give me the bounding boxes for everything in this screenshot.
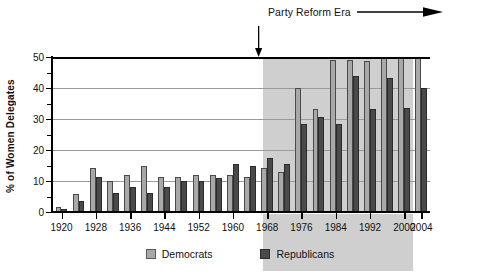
- republicans-bar-1940: [147, 193, 153, 212]
- x-axis-tick: [130, 213, 131, 219]
- x-axis-tick: [404, 213, 405, 219]
- y-tick-label: 10: [20, 176, 44, 187]
- x-axis-tick: [267, 213, 268, 219]
- republicans-bar-1944: [164, 187, 170, 212]
- republicans-bar-1960: [233, 164, 239, 212]
- y-tick-label: 20: [20, 145, 44, 156]
- y-axis-title: % of Women Delegates: [2, 56, 18, 216]
- plot-area: [53, 57, 430, 212]
- y-minor-tick: [47, 197, 51, 198]
- legend-item-republicans: Republicans: [260, 248, 334, 260]
- party-reform-era-annotation: Party Reform Era: [268, 6, 443, 18]
- y-axis-line: [51, 56, 53, 213]
- y-minor-tick: [47, 135, 51, 136]
- y-major-tick: [46, 57, 51, 58]
- republicans-bar-1948: [181, 181, 187, 212]
- republicans-bar-1932: [113, 193, 119, 212]
- chart-figure: Party Reform Era % of Women Delegates 50…: [0, 0, 480, 280]
- x-axis-tick: [233, 213, 234, 219]
- y-minor-tick: [47, 104, 51, 105]
- republicans-bar-1928: [96, 177, 102, 212]
- y-major-tick: [46, 88, 51, 89]
- bar-series-container: [53, 57, 430, 212]
- x-axis-tick: [199, 213, 200, 219]
- annotation-label: Party Reform Era: [268, 6, 351, 18]
- republicans-bar-1936: [130, 187, 136, 212]
- y-minor-tick: [47, 166, 51, 167]
- x-axis-tick: [370, 213, 371, 219]
- y-tick-label: 0: [20, 207, 44, 218]
- republicans-bar-1952: [199, 181, 205, 212]
- y-minor-tick: [47, 73, 51, 74]
- republicans-bar-1996: [387, 78, 393, 212]
- y-tick-label: 50: [20, 52, 44, 63]
- x-axis-tick: [62, 213, 63, 219]
- y-tick-label: 40: [20, 83, 44, 94]
- republicans-bar-1956: [216, 178, 222, 212]
- right-arrow-icon: [357, 6, 443, 18]
- republicans-bar-1988: [353, 76, 359, 212]
- republicans-bar-1964: [250, 166, 256, 212]
- x-axis-tick: [336, 213, 337, 219]
- republicans-bar-1968: [267, 158, 273, 212]
- x-axis-tick: [301, 213, 302, 219]
- republicans-bar-1980: [318, 117, 324, 212]
- legend-item-democrats: Democrats: [146, 248, 213, 260]
- republicans-bar-1992: [370, 109, 376, 212]
- democrats-swatch-icon: [146, 249, 156, 259]
- y-axis-tick-labels: 50 40 30 20 10 0: [18, 0, 44, 280]
- x-tick-label: 2004: [401, 222, 441, 233]
- y-major-tick: [46, 181, 51, 182]
- republicans-bar-2000: [404, 108, 410, 212]
- republicans-bar-1972: [284, 164, 290, 212]
- x-axis-line: [51, 211, 430, 213]
- republicans-bar-1984: [336, 124, 342, 212]
- legend-label-democrats: Democrats: [162, 248, 213, 260]
- x-axis-tick: [164, 213, 165, 219]
- republicans-bar-1976: [301, 124, 307, 212]
- chart-legend: Democrats Republicans: [0, 248, 480, 260]
- republicans-bar-2004: [421, 88, 427, 212]
- x-axis-tick: [421, 213, 422, 219]
- legend-label-republicans: Republicans: [276, 248, 334, 260]
- y-major-tick: [46, 119, 51, 120]
- republicans-swatch-icon: [260, 249, 270, 259]
- x-axis-tick: [96, 213, 97, 219]
- axis-top-border: [53, 57, 430, 59]
- y-tick-label: 30: [20, 114, 44, 125]
- y-major-tick: [46, 150, 51, 151]
